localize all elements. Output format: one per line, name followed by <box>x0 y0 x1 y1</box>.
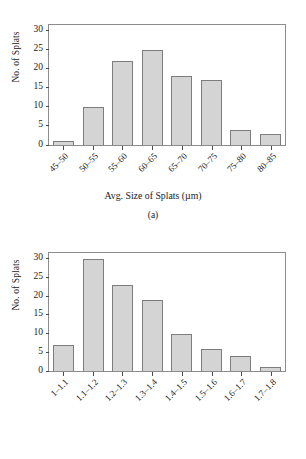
y-tick-label: 30 <box>34 24 44 34</box>
y-tick-mark <box>46 258 50 259</box>
x-tick: 60–65 <box>137 146 167 152</box>
x-tick: 80–85 <box>256 146 286 152</box>
x-tick-label: 1.4–1.5 <box>163 377 189 403</box>
x-axis-title-a: Avg. Size of Splats (µm) <box>0 190 306 201</box>
bar-slot <box>167 25 197 145</box>
x-tick-mark <box>63 146 64 150</box>
x-tick-mark <box>182 146 183 150</box>
figure-caption-a: (a) <box>0 210 306 220</box>
x-tick-label: 1–1.1 <box>49 377 70 398</box>
y-tick-mark <box>46 49 50 50</box>
x-tick-mark <box>182 372 183 376</box>
x-tick: 50–55 <box>78 146 108 152</box>
bar-1–1.1 <box>53 345 74 371</box>
x-tick-mark <box>93 372 94 376</box>
x-axis-ticks-a: 45–5050–5555–6060–6565–7070–7575–8080–85 <box>48 146 286 152</box>
bar-1.3–1.4 <box>142 300 163 371</box>
x-tick: 1.6–1.7 <box>227 372 257 378</box>
x-tick-label: 70–75 <box>196 151 219 174</box>
bar-slot <box>197 253 227 371</box>
x-tick: 1.3–1.4 <box>137 372 167 378</box>
x-tick-mark <box>122 146 123 150</box>
y-tick-label: 5 <box>38 346 43 356</box>
plot-area-b: 051015202530 <box>48 252 286 372</box>
x-tick: 1.4–1.5 <box>167 372 197 378</box>
x-tick: 1–1.1 <box>48 372 78 378</box>
bar-series-b <box>49 253 285 371</box>
bar-1.7–1.8 <box>260 367 281 371</box>
bar-1.4–1.5 <box>171 334 192 371</box>
y-tick-mark <box>46 68 50 69</box>
x-tick: 1.7–1.8 <box>256 372 286 378</box>
y-tick-label: 10 <box>34 100 44 110</box>
x-tick-mark <box>241 372 242 376</box>
bar-slot <box>79 253 109 371</box>
y-tick-label: 20 <box>34 290 44 300</box>
x-tick-mark <box>152 146 153 150</box>
y-tick-label: 30 <box>34 252 44 262</box>
x-tick-mark <box>271 146 272 150</box>
y-tick-label: 0 <box>38 365 43 375</box>
y-axis-title-a: No. of Splats <box>11 0 21 117</box>
x-tick-mark <box>63 372 64 376</box>
y-tick-mark <box>46 296 50 297</box>
x-tick-label: 1.6–1.7 <box>222 377 248 403</box>
bar-1.6–1.7 <box>230 356 251 371</box>
y-tick-mark <box>46 277 50 278</box>
x-tick-label: 75–80 <box>225 151 248 174</box>
y-tick-label: 5 <box>38 119 43 129</box>
x-tick-label: 1.3–1.4 <box>133 377 159 403</box>
y-tick-label: 15 <box>34 81 44 91</box>
y-tick-mark <box>46 87 50 88</box>
y-tick-mark <box>46 352 50 353</box>
bar-slot <box>138 253 168 371</box>
x-tick-label: 65–70 <box>166 151 189 174</box>
x-tick: 70–75 <box>197 146 227 152</box>
x-tick-label: 80–85 <box>255 151 278 174</box>
bar-slot <box>167 253 197 371</box>
x-tick-label: 60–65 <box>136 151 159 174</box>
bar-45–50 <box>53 141 74 145</box>
x-tick: 45–50 <box>48 146 78 152</box>
y-tick-label: 20 <box>34 62 44 72</box>
y-tick-mark <box>46 333 50 334</box>
x-axis-ticks-b: 1–1.11.1–1.21.2–1.31.3–1.41.4–1.51.5–1.6… <box>48 372 286 378</box>
x-tick: 1.2–1.3 <box>108 372 138 378</box>
x-tick: 75–80 <box>227 146 257 152</box>
x-tick-mark <box>212 372 213 376</box>
x-tick: 65–70 <box>167 146 197 152</box>
bar-slot <box>108 253 138 371</box>
y-tick-mark <box>46 125 50 126</box>
x-tick-label: 1.7–1.8 <box>252 377 278 403</box>
bar-1.2–1.3 <box>112 285 133 371</box>
bar-series-a <box>49 25 285 145</box>
bar-50–55 <box>83 107 104 145</box>
x-tick: 1.1–1.2 <box>78 372 108 378</box>
bar-65–70 <box>171 76 192 145</box>
y-tick-mark <box>46 314 50 315</box>
bar-slot <box>197 25 227 145</box>
y-tick-mark <box>46 30 50 31</box>
x-tick: 1.5–1.6 <box>197 372 227 378</box>
bar-70–75 <box>201 80 222 145</box>
x-tick-mark <box>122 372 123 376</box>
bar-slot <box>256 25 286 145</box>
x-tick-mark <box>212 146 213 150</box>
figure-panel-b: No. of Splats 051015202530 1–1.11.1–1.21… <box>0 230 306 459</box>
x-tick-label: 45–50 <box>47 151 70 174</box>
bar-slot <box>79 25 109 145</box>
bar-slot <box>226 25 256 145</box>
bar-slot <box>108 25 138 145</box>
x-tick-mark <box>152 372 153 376</box>
x-tick: 55–60 <box>108 146 138 152</box>
x-tick-label: 50–55 <box>77 151 100 174</box>
figure-panel-a: No. of Splats 051015202530 45–5050–5555–… <box>0 0 306 229</box>
y-axis-title-b: No. of Splats <box>11 225 21 345</box>
bar-80–85 <box>260 134 281 145</box>
y-tick-label: 10 <box>34 327 44 337</box>
bar-slot <box>256 253 286 371</box>
x-tick-mark <box>241 146 242 150</box>
bar-1.5–1.6 <box>201 349 222 371</box>
bar-1.1–1.2 <box>83 259 104 371</box>
x-tick-mark <box>271 372 272 376</box>
